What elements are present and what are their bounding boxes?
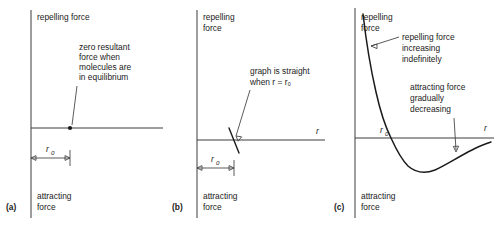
panel-b-graph: repelling force graph is straight when r… (166, 0, 332, 227)
annotation-line-3: molecules are (79, 62, 131, 72)
annotation-line-1: zero resultant (79, 42, 130, 52)
panel-a: repelling force ​ zero resultant force w… (0, 0, 166, 227)
panel-c-graph: repelling force repelling force increasi… (332, 0, 498, 227)
force-separation-figure: repelling force ​ zero resultant force w… (0, 0, 498, 227)
annotation-2-line-2: gradually (410, 93, 445, 103)
y-axis-bottom-label-line1: attracting (361, 191, 396, 201)
annotation-1-line-3: indefinitely (402, 54, 442, 64)
annotation-leader-line (72, 86, 77, 125)
annotation-line-2: when r = r₀ (249, 77, 291, 87)
annotation-1-line-2: increasing (402, 43, 441, 53)
y-axis-bottom-label-line1: attracting (203, 191, 238, 201)
x-axis-label: r (316, 126, 320, 136)
annotation-line-1: graph is straight (250, 66, 310, 76)
r0-crossing-label: r (380, 125, 384, 135)
annotation-2-leader-line (454, 118, 456, 150)
y-axis-bottom-label-line2: force (361, 202, 380, 212)
r0-label: r (46, 144, 50, 154)
r0-label-subscript: 0 (51, 149, 55, 156)
annotation-leader-line (236, 90, 250, 136)
panel-c: repelling force repelling force increasi… (332, 0, 498, 227)
y-axis-bottom-label-line1: attracting (37, 191, 72, 201)
panel-b-id: (b) (172, 202, 183, 212)
panel-c-id: (c) (334, 202, 344, 212)
panel-a-id: (a) (6, 202, 16, 212)
annotation-line-4: in equilibrium (79, 72, 128, 82)
y-axis-top-label-line2: force (203, 23, 222, 33)
r0-label: r (211, 154, 215, 164)
annotation-2-line-3: decreasing (410, 104, 451, 114)
y-axis-top-label-line1: repelling force (37, 12, 90, 22)
r0-crossing-label-subscript: 0 (385, 130, 389, 137)
annotation-1-line-1: repelling force (402, 32, 455, 42)
y-axis-bottom-label-line2: force (37, 202, 56, 212)
annotation-1-arrowhead (371, 44, 377, 49)
y-axis-top-label-line1: repelling (203, 12, 235, 22)
annotation-line-2: force when (79, 52, 120, 62)
y-axis-bottom-label-line2: force (203, 202, 222, 212)
panel-a-graph: repelling force ​ zero resultant force w… (0, 0, 166, 227)
annotation-2-line-1: attracting force (410, 82, 466, 92)
r0-label-subscript: 0 (216, 159, 220, 166)
equilibrium-point-marker (68, 126, 72, 130)
x-axis-label: r (484, 123, 488, 133)
y-axis-top-label-line1: repelling (361, 12, 393, 22)
panel-b: repelling force graph is straight when r… (166, 0, 332, 227)
